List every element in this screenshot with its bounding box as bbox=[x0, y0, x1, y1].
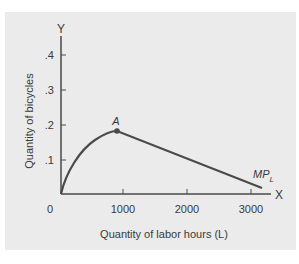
x-axis-letter: X bbox=[275, 188, 283, 202]
y-axis-letter: Y bbox=[57, 22, 65, 36]
x-axis-title: Quantity of labor hours (L) bbox=[100, 228, 228, 240]
x-tick-label: 1000 bbox=[111, 203, 135, 215]
x-tick-label: 3000 bbox=[239, 203, 263, 215]
mp-label: MPL bbox=[253, 168, 274, 184]
point-a-marker bbox=[114, 128, 120, 134]
y-tick-label: .1 bbox=[45, 154, 54, 166]
y-tick-label: .2 bbox=[45, 119, 54, 131]
x-tick-label: 2000 bbox=[175, 203, 199, 215]
point-a-label: A bbox=[111, 115, 119, 127]
y-tick-label: .4 bbox=[45, 49, 54, 61]
mp-chart: .1 .2 .3 .4 0 1000 2000 3000 Y X Quantit… bbox=[0, 0, 299, 264]
mp-curve bbox=[61, 131, 262, 194]
y-axis-title: Quantity of bicycles bbox=[23, 73, 35, 169]
x-tick-label: 0 bbox=[47, 203, 53, 215]
y-tick-label: .3 bbox=[45, 84, 54, 96]
